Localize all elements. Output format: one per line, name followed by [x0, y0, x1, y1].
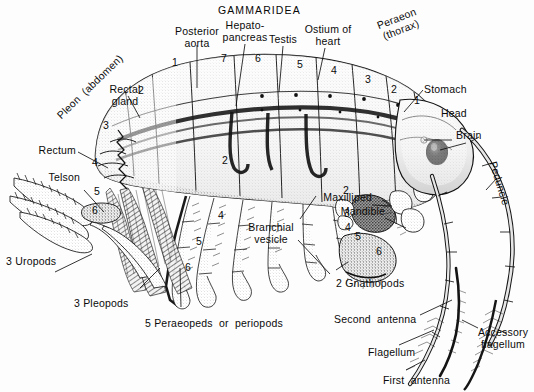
segment-number: 6	[255, 53, 261, 64]
segment-number: 2	[343, 185, 349, 196]
label-brain: Brain	[456, 130, 482, 142]
segment-number: 4	[331, 65, 337, 76]
label-branchial-vesicle: Branchial vesicle	[236, 222, 306, 245]
segment-number: 1	[414, 95, 420, 106]
label-gnathopods: 2 Gnathopods	[336, 278, 404, 290]
label-accessory-flagellum: Accessory flagellum	[472, 327, 534, 350]
segment-number: 3	[365, 74, 371, 85]
label-pleopods: 3 Pleopods	[74, 298, 129, 310]
segment-number: 5	[297, 59, 303, 70]
label-second-antenna: Second antenna	[334, 314, 416, 326]
anatomical-plate: GAMMARIDEA Posterior aorta Hepato- pancr…	[0, 0, 534, 392]
segment-number: 5	[94, 186, 100, 197]
segment-number: 2	[138, 85, 144, 96]
label-stomach: Stomach	[424, 84, 467, 96]
label-flagellum: Flagellum	[368, 347, 415, 359]
label-uropods: 3 Uropods	[6, 256, 56, 268]
segment-number: 6	[376, 246, 382, 257]
label-maxilliped: Maxilliped	[292, 192, 372, 204]
label-head: Head	[441, 108, 467, 120]
segment-number: 2	[222, 155, 228, 166]
segment-number: 4	[345, 222, 351, 233]
label-ostium-of-heart: Ostium of heart	[293, 24, 363, 47]
segment-number: 7	[221, 53, 227, 64]
segment-number: 3	[103, 120, 109, 131]
segment-number: 6	[92, 205, 98, 216]
segment-number: 2	[391, 84, 397, 95]
segment-number: 6	[185, 262, 191, 273]
gammaridea-illustration	[0, 0, 534, 392]
label-rectum: Rectum	[18, 145, 76, 157]
segment-number: 4	[92, 157, 98, 168]
segment-number: 4	[218, 210, 224, 221]
label-telson: Telson	[28, 172, 80, 184]
label-first-antenna: First antenna	[383, 375, 450, 387]
segment-number: 5	[355, 231, 361, 242]
label-peraeopeds: 5 Peraeopeds or periopods	[145, 318, 283, 330]
segment-number: 1	[172, 57, 178, 68]
segment-number: 5	[196, 236, 202, 247]
label-rectal-gland: Rectal gland	[91, 84, 159, 107]
figure-title: GAMMARIDEA	[218, 4, 301, 16]
segment-number: 3	[344, 208, 350, 219]
